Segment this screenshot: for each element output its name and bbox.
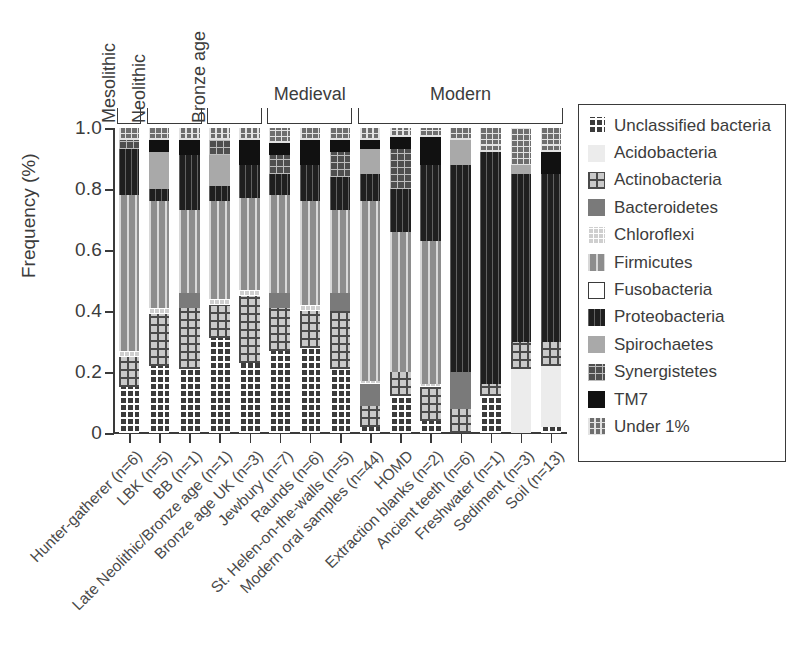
period-label: Neolithic bbox=[129, 54, 150, 123]
legend-swatch-icon bbox=[588, 391, 605, 408]
bar-segment bbox=[450, 128, 471, 140]
bar-segment bbox=[390, 137, 411, 149]
period-label: Modern bbox=[430, 84, 491, 105]
y-axis-line bbox=[113, 128, 115, 433]
y-tick-label: 0.2 bbox=[75, 361, 102, 383]
legend-label: Actinobacteria bbox=[614, 170, 722, 190]
legend-item[interactable]: Fusobacteria bbox=[588, 276, 785, 303]
bar-segment bbox=[209, 140, 230, 155]
legend-swatch-icon bbox=[588, 254, 605, 271]
legend-item[interactable]: Acidobacteria bbox=[588, 139, 785, 166]
bar-segment bbox=[269, 143, 290, 155]
stacked-bar[interactable] bbox=[149, 128, 170, 433]
bar-segment bbox=[330, 152, 351, 176]
legend-item[interactable]: Unclassified bacteria bbox=[588, 112, 785, 139]
bar-segment bbox=[119, 140, 140, 149]
period-label: Mesolithic bbox=[99, 43, 120, 123]
bar-segment bbox=[300, 140, 321, 164]
legend-item[interactable]: TM7 bbox=[588, 386, 785, 413]
y-axis-title: Frequency (%) bbox=[18, 153, 40, 278]
legend-item[interactable]: Spirochaetes bbox=[588, 331, 785, 358]
bar-segment bbox=[119, 149, 140, 195]
bar-segment bbox=[119, 128, 140, 140]
bar-segment bbox=[209, 128, 230, 140]
legend-swatch-icon bbox=[588, 145, 605, 162]
legend-label: Synergistetes bbox=[614, 362, 717, 382]
bar-segment bbox=[330, 177, 351, 211]
bar-segment bbox=[269, 155, 290, 173]
legend-label: Unclassified bacteria bbox=[614, 116, 771, 136]
bar-segment bbox=[179, 210, 200, 292]
legend-swatch-icon bbox=[588, 418, 605, 435]
legend-label: TM7 bbox=[614, 390, 648, 410]
legend-label: Acidobacteria bbox=[614, 143, 717, 163]
stacked-bar[interactable] bbox=[119, 128, 140, 433]
bar-segment bbox=[450, 140, 471, 164]
legend-swatch-icon bbox=[588, 309, 605, 326]
bar-segment bbox=[511, 165, 532, 174]
bar-segment bbox=[209, 305, 230, 339]
bar-segment bbox=[300, 311, 321, 348]
bar-segment bbox=[330, 140, 351, 152]
bar-segment bbox=[360, 128, 381, 140]
bar-segment bbox=[269, 308, 290, 351]
bar-segment bbox=[149, 152, 170, 189]
y-tick-label: 0.6 bbox=[75, 239, 102, 261]
period-label: Medieval bbox=[274, 84, 346, 105]
bar-segment bbox=[239, 165, 260, 199]
y-tick-mark bbox=[105, 189, 114, 191]
bar-segment bbox=[149, 189, 170, 201]
legend-label: Under 1% bbox=[614, 417, 690, 437]
legend-swatch-icon bbox=[588, 282, 605, 299]
period-bracket bbox=[207, 108, 262, 124]
legend-item[interactable]: Synergistetes bbox=[588, 359, 785, 386]
legend-item[interactable]: Under 1% bbox=[588, 413, 785, 440]
stacked-bar[interactable] bbox=[239, 128, 260, 433]
bar-segment bbox=[209, 201, 230, 299]
legend-swatch-icon bbox=[588, 172, 605, 189]
bar-segment bbox=[179, 128, 200, 140]
bar-segment bbox=[360, 174, 381, 201]
bar-segment bbox=[149, 140, 170, 152]
bar-segment bbox=[541, 174, 562, 342]
bar-segment bbox=[119, 195, 140, 351]
bar-segment bbox=[541, 152, 562, 173]
bar-segment bbox=[390, 149, 411, 189]
y-tick-mark bbox=[105, 372, 114, 374]
legend-label: Chloroflexi bbox=[614, 225, 694, 245]
y-tick-label: 1.0 bbox=[75, 117, 102, 139]
chart-legend: Unclassified bacteriaAcidobacteriaActino… bbox=[578, 104, 786, 462]
legend-swatch-icon bbox=[588, 117, 605, 134]
legend-label: Firmicutes bbox=[614, 253, 692, 273]
legend-item[interactable]: Chloroflexi bbox=[588, 222, 785, 249]
bar-segment bbox=[209, 186, 230, 201]
legend-item[interactable]: Proteobacteria bbox=[588, 304, 785, 331]
period-bracket-group: MesolithicNeolithicBronze ageMedievalMod… bbox=[114, 108, 566, 126]
bar-segment bbox=[239, 140, 260, 164]
bar-segment bbox=[330, 293, 351, 311]
legend-swatch-icon bbox=[588, 199, 605, 216]
bar-segment bbox=[179, 308, 200, 369]
bar-segment bbox=[209, 155, 230, 186]
bar-segment bbox=[300, 201, 321, 305]
period-bracket bbox=[267, 108, 352, 124]
legend-item[interactable]: Bacteroidetes bbox=[588, 194, 785, 221]
bar-segment bbox=[300, 165, 321, 202]
bar-segment bbox=[541, 128, 562, 152]
legend-item[interactable]: Actinobacteria bbox=[588, 167, 785, 194]
bar-segment bbox=[360, 140, 381, 149]
bar-segment bbox=[149, 201, 170, 308]
x-axis-labels: Hunter-gatherer (n=6)LBK (n=5)BB (n=1)La… bbox=[114, 433, 566, 434]
bar-segment bbox=[269, 128, 290, 143]
legend-swatch-icon bbox=[588, 336, 605, 353]
y-tick-mark bbox=[105, 311, 114, 313]
bar-segment bbox=[300, 128, 321, 140]
bar-segment bbox=[390, 128, 411, 137]
y-tick-label: 0 bbox=[91, 422, 102, 444]
x-tick-mark bbox=[129, 433, 131, 443]
bar-segment bbox=[179, 140, 200, 155]
bar-segment bbox=[420, 137, 441, 164]
legend-item[interactable]: Firmicutes bbox=[588, 249, 785, 276]
y-tick-label: 0.4 bbox=[75, 300, 102, 322]
bar-segment bbox=[119, 387, 140, 433]
